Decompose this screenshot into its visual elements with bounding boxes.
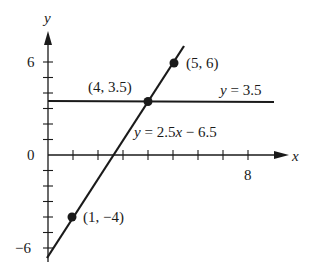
y-tick-label-6: 6 — [27, 54, 35, 70]
x-tick-label-8: 8 — [244, 167, 252, 183]
point-label-5-6: (5, 6) — [186, 55, 219, 72]
point-label-4-3-5: (4, 3.5) — [88, 79, 132, 96]
equation-label-horizontal: y = 3.5 — [218, 82, 261, 98]
line-y-equals-2-5x-minus-6-5 — [47, 46, 184, 258]
coordinate-plane: y x 6 0 −6 8 (5, 6) (4, 3.5) (1, −4) y =… — [0, 0, 322, 279]
y-tick-label-0: 0 — [27, 147, 35, 163]
y-axis — [43, 31, 53, 262]
point-4-3-5 — [144, 97, 153, 106]
y-axis-arrow-icon — [44, 31, 52, 45]
x-axis-arrow-icon — [274, 151, 289, 159]
point-label-1-neg4: (1, −4) — [83, 209, 124, 226]
y-tick-label-neg6: −6 — [15, 240, 31, 256]
x-axis-label: x — [291, 148, 299, 164]
equation-label-slanted: y = 2.5x − 6.5 — [132, 124, 217, 140]
point-5-6 — [170, 59, 179, 68]
y-axis-label: y — [42, 10, 51, 26]
x-axis — [48, 150, 289, 160]
line-y-equals-3-5 — [48, 101, 274, 102]
point-1-neg4 — [68, 213, 77, 222]
